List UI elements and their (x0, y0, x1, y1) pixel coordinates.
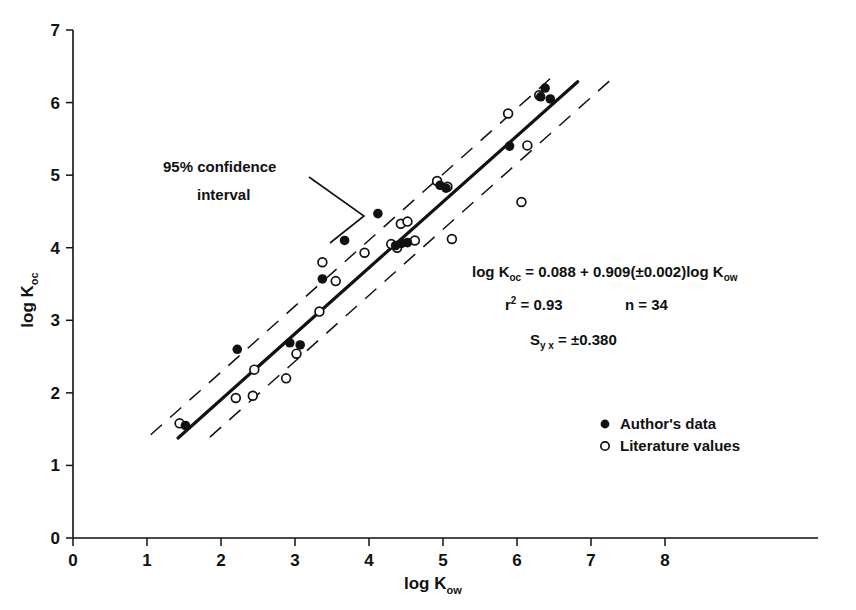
data-point-author (505, 141, 515, 151)
ci-leader-line (309, 177, 364, 243)
x-axis-title: log Kow (404, 574, 462, 596)
x-axis-title-text: log Kow (404, 574, 462, 596)
equation-line-1: log Koc = 0.088 + 0.909(±0.002)log Kow (472, 263, 738, 283)
data-point-author (318, 274, 328, 284)
data-point-literature (231, 394, 240, 403)
data-point-author (181, 421, 191, 431)
y-tick-label: 0 (51, 529, 60, 548)
legend-marker-open-circle-icon (601, 442, 609, 450)
y-tick-label: 7 (51, 21, 60, 40)
equation-n-value: n = 34 (625, 296, 669, 313)
y-tick-label: 4 (51, 239, 61, 258)
y-axis-title: log Koc (18, 272, 40, 327)
eq-s-symbol: S (530, 331, 540, 348)
y-tick-label: 3 (51, 311, 60, 330)
data-point-author (403, 238, 413, 248)
x-axis-ticks: 012345678 (68, 538, 669, 570)
y-title-base: log K (18, 284, 37, 327)
ci-annotation-line1: 95% confidence (163, 158, 276, 175)
data-point-literature (360, 248, 369, 257)
equation-sy-x: Sy x = ±0.380 (530, 331, 617, 351)
x-tick-label: 1 (142, 551, 151, 570)
data-point-author (441, 183, 451, 193)
data-point-author (546, 94, 556, 104)
eq-sub-oc: oc (510, 272, 522, 283)
data-point-author (340, 236, 350, 246)
x-tick-label: 4 (364, 551, 374, 570)
y-title-sub: oc (28, 272, 40, 285)
x-tick-label: 5 (438, 551, 447, 570)
data-point-author (232, 345, 242, 355)
data-point-literature (504, 109, 513, 118)
data-point-author (540, 83, 550, 93)
plot-legend: Author's data Literature values (601, 415, 740, 454)
y-axis-title-text: log Koc (18, 272, 40, 327)
data-point-literature (292, 349, 301, 358)
eq-r-value: = 0.93 (516, 296, 562, 313)
legend-label-literature-values: Literature values (620, 437, 740, 454)
data-point-literature (250, 365, 259, 374)
confidence-interval-annotation: 95% confidence interval (163, 158, 364, 243)
scatter-plot: 01234567 012345678 95% confidence interv… (0, 0, 856, 610)
regression-line (178, 82, 578, 438)
data-point-literature (523, 141, 532, 150)
y-axis-ticks: 01234567 (51, 21, 73, 548)
legend-marker-filled-circle-icon (601, 420, 610, 429)
y-tick-label: 5 (51, 166, 60, 185)
x-title-base: log K (404, 574, 447, 593)
equation-block: log Koc = 0.088 + 0.909(±0.002)log Kow r… (472, 263, 738, 351)
eq-s-value: = ±0.380 (554, 331, 617, 348)
x-tick-label: 3 (290, 551, 299, 570)
x-title-sub: ow (447, 584, 463, 596)
data-point-author (373, 209, 383, 219)
data-point-literature (318, 258, 327, 267)
data-point-literature (403, 217, 412, 226)
data-point-author (295, 340, 305, 350)
x-tick-label: 6 (512, 551, 521, 570)
data-point-literature (315, 307, 324, 316)
literature-values-points (175, 91, 543, 428)
data-point-literature (282, 374, 291, 383)
eq-logk-1: log K (472, 263, 510, 280)
eq-sub-ow: ow (724, 272, 738, 283)
data-point-literature (248, 391, 257, 400)
eq-body: = 0.088 + 0.909(±0.002)log K (521, 263, 724, 280)
data-point-author (536, 92, 546, 102)
x-tick-label: 0 (68, 551, 77, 570)
figure-container: 01234567 012345678 95% confidence interv… (0, 0, 856, 610)
y-tick-label: 6 (51, 94, 60, 113)
ci-annotation-line2: interval (197, 186, 250, 203)
x-tick-label: 7 (586, 551, 595, 570)
eq-s-subscript: y x (540, 340, 554, 351)
legend-label-authors-data: Author's data (620, 415, 717, 432)
equation-r-squared: r2 = 0.93 (505, 295, 563, 313)
y-tick-label: 2 (51, 384, 60, 403)
data-point-literature (331, 277, 340, 286)
data-point-author (285, 338, 295, 348)
x-tick-label: 2 (216, 551, 225, 570)
y-tick-label: 1 (51, 456, 60, 475)
x-tick-label: 8 (660, 551, 669, 570)
data-point-literature (447, 235, 456, 244)
data-point-literature (517, 198, 526, 207)
